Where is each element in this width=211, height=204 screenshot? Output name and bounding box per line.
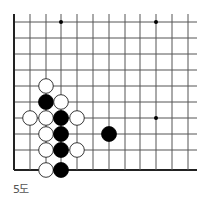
- white-stone: [39, 163, 54, 178]
- white-stone: [39, 127, 54, 142]
- black-stone: [54, 127, 69, 142]
- black-stone: [54, 111, 69, 126]
- white-stone: [39, 111, 54, 126]
- white-stone: [70, 143, 85, 158]
- white-stone: [23, 111, 38, 126]
- white-stone: [39, 143, 54, 158]
- star-point: [59, 20, 63, 24]
- star-point: [154, 20, 158, 24]
- black-stone: [39, 95, 54, 110]
- white-stone: [54, 95, 69, 110]
- white-stone: [39, 79, 54, 94]
- black-stone: [54, 163, 69, 178]
- diagram-caption: 5도: [13, 180, 29, 196]
- star-point: [154, 116, 158, 120]
- white-stone: [70, 111, 85, 126]
- black-stone: [102, 127, 117, 142]
- go-board: [0, 0, 211, 178]
- black-stone: [54, 143, 69, 158]
